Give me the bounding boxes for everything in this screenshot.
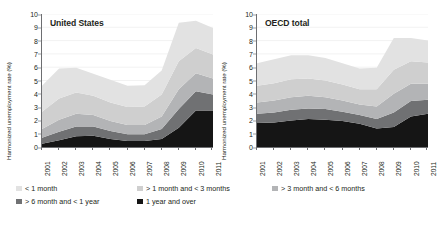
x-tick-label-2007-oecd: 2007 [361, 161, 368, 176]
chart-title-oecd: OECD total [265, 18, 309, 28]
x-tick-label-2007-us: 2007 [146, 161, 153, 176]
y-tick-6-us: 6 [34, 64, 38, 71]
x-tickmark-2009-us [178, 147, 179, 150]
y-axis-label-oecd: Harmonized unemployment rate (%) [218, 10, 229, 160]
x-tickmark-2003-us [75, 147, 76, 150]
x-tick-label-2001-us: 2001 [44, 161, 51, 176]
y-tick-5-oecd: 5 [249, 77, 253, 84]
x-tickmark-2005-oecd [324, 147, 325, 150]
legend-swatch-icon [137, 199, 143, 205]
x-tick-label-2009-us: 2009 [180, 161, 187, 176]
x-tickmark-2001-oecd [256, 147, 257, 150]
x-tickmark-2009-oecd [393, 147, 394, 150]
y-tick-8-oecd: 8 [249, 37, 253, 44]
y-tick-9-oecd: 9 [249, 24, 253, 31]
legend-label: > 6 month and < 1 year [25, 197, 99, 206]
x-tick-label-2003-oecd: 2003 [293, 161, 300, 176]
plot-area-us [41, 14, 213, 148]
x-tickmark-2001-us [41, 147, 42, 150]
x-tickmark-2010-us [195, 147, 196, 150]
x-tick-label-2004-oecd: 2004 [310, 161, 317, 176]
legend-item--6-month-and-1-year[interactable]: > 6 month and < 1 year [16, 197, 99, 206]
legend-item--1-month[interactable]: < 1 month [16, 184, 57, 193]
legend-item--1-month-and-3-months[interactable]: > 1 month and < 3 months [137, 184, 230, 193]
x-tickmark-2004-oecd [307, 147, 308, 150]
y-tick-6-oecd: 6 [249, 64, 253, 71]
x-tick-label-2008-us: 2008 [163, 161, 170, 176]
x-tickmark-2005-us [109, 147, 110, 150]
chart-panel-united-states: Harmonized unemployment rate (%) 0123456… [0, 0, 217, 180]
x-tickmark-2003-oecd [290, 147, 291, 150]
legend-label: > 3 month and < 6 months [281, 184, 365, 193]
x-tick-label-2003-us: 2003 [78, 161, 85, 176]
x-tick-label-2006-oecd: 2006 [344, 161, 351, 176]
legend-swatch-icon [16, 186, 22, 192]
x-axis-labels-us: 2001200220032004200520062007200820092010… [41, 150, 212, 180]
y-tick-10-us: 10 [30, 11, 38, 18]
x-tick-label-2005-oecd: 2005 [327, 161, 334, 176]
y-tick-2-oecd: 2 [249, 117, 253, 124]
x-tick-label-2002-us: 2002 [61, 161, 68, 176]
x-tick-label-2005-us: 2005 [112, 161, 119, 176]
x-tickmark-2008-oecd [376, 147, 377, 150]
y-tick-4-us: 4 [34, 90, 38, 97]
x-tickmark-2007-oecd [359, 147, 360, 150]
y-tick-3-us: 3 [34, 104, 38, 111]
y-tick-10-oecd: 10 [245, 11, 253, 18]
x-tick-label-2009-oecd: 2009 [395, 161, 402, 176]
x-tickmark-2002-oecd [273, 147, 274, 150]
y-tick-7-us: 7 [34, 50, 38, 57]
y-tick-9-us: 9 [34, 24, 38, 31]
chart-title-us: United States [50, 18, 104, 28]
legend-label: < 1 month [25, 184, 57, 193]
chart-legend: < 1 month> 1 month and < 3 months> 3 mon… [0, 183, 434, 215]
y-tick-0-oecd: 0 [249, 144, 253, 151]
x-tick-label-2010-oecd: 2010 [413, 161, 420, 176]
legend-swatch-icon [272, 186, 278, 192]
y-tick-8-us: 8 [34, 37, 38, 44]
x-tickmark-2006-us [127, 147, 128, 150]
x-tickmark-2007-us [144, 147, 145, 150]
stacked-area-svg-oecd [257, 14, 428, 147]
x-axis-labels-oecd: 2001200220032004200520062007200820092010… [256, 150, 427, 180]
legend-item-1-year-and-over[interactable]: 1 year and over [137, 197, 196, 206]
x-tick-label-2010-us: 2010 [198, 161, 205, 176]
y-tick-4-oecd: 4 [249, 90, 253, 97]
y-tick-2-us: 2 [34, 117, 38, 124]
y-tick-3-oecd: 3 [249, 104, 253, 111]
y-tick-7-oecd: 7 [249, 50, 253, 57]
y-axis-label-us: Harmonized unemployment rate (%) [3, 10, 14, 160]
legend-item--3-month-and-6-months[interactable]: > 3 month and < 6 months [272, 184, 365, 193]
x-tickmark-2006-oecd [342, 147, 343, 150]
x-tickmark-2010-oecd [410, 147, 411, 150]
x-tick-label-2004-us: 2004 [95, 161, 102, 176]
x-tick-label-2006-us: 2006 [129, 161, 136, 176]
x-tickmark-2011-us [211, 147, 212, 150]
y-tick-1-us: 1 [34, 130, 38, 137]
x-tickmark-2008-us [161, 147, 162, 150]
x-tick-label-2002-oecd: 2002 [276, 161, 283, 176]
stacked-area-svg-us [42, 14, 213, 147]
x-tickmark-2011-oecd [426, 147, 427, 150]
x-tick-label-2008-oecd: 2008 [378, 161, 385, 176]
y-axis-ticks-us: 012345678910 [20, 14, 38, 147]
x-tickmark-2004-us [92, 147, 93, 150]
y-tick-5-us: 5 [34, 77, 38, 84]
x-tick-label-2001-oecd: 2001 [259, 161, 266, 176]
legend-label: 1 year and over [146, 197, 196, 206]
plot-area-oecd [256, 14, 428, 148]
y-tick-1-oecd: 1 [249, 130, 253, 137]
x-tick-label-2011-oecd: 2011 [430, 162, 437, 176]
legend-label: > 1 month and < 3 months [146, 184, 230, 193]
legend-swatch-icon [137, 186, 143, 192]
chart-panel-oecd-total: Harmonized unemployment rate (%) 0123456… [215, 0, 434, 180]
y-axis-ticks-oecd: 012345678910 [235, 14, 253, 147]
y-tick-0-us: 0 [34, 144, 38, 151]
legend-swatch-icon [16, 199, 22, 205]
x-tickmark-2002-us [58, 147, 59, 150]
